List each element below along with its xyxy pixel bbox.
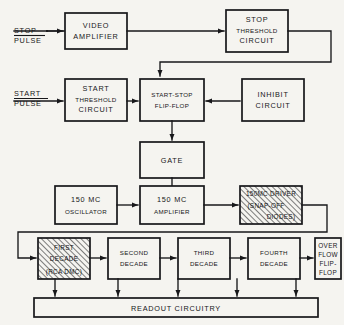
start-pulse-input: START PULSE [14, 89, 48, 108]
video-amplifier-box [65, 13, 127, 49]
block-third-decade: THIRD DECADE [178, 238, 230, 279]
oscillator-label-line2: OSCILLATOR [65, 208, 107, 215]
block-first-decade: FIRST DECADE (RCA DMC) [38, 238, 90, 279]
third-decade-label-line1: THIRD [194, 249, 215, 256]
driver-label-line3: DIODES) [267, 213, 296, 221]
block-overflow-flip-flop: OVER FLOW FLIP- FLOP [315, 238, 341, 279]
start-threshold-label-line2: THRESHOLD [75, 96, 116, 103]
first-decade-label-line1: FIRST [54, 244, 74, 251]
overflow-label-line2: FLOW [318, 251, 338, 258]
readout-label-line1: READOUT CIRCUITRY [131, 304, 221, 313]
block-readout-circuitry: READOUT CIRCUITRY [34, 298, 318, 317]
start-pulse-label-line1: START [14, 89, 41, 98]
stop-threshold-label-line3: CIRCUIT [240, 36, 275, 45]
block-gate: GATE [140, 142, 204, 178]
fourth-decade-label-line1: FOURTH [260, 249, 288, 256]
stop-threshold-label-line2: THRESHOLD [236, 27, 277, 34]
fourth-decade-box [248, 238, 300, 279]
block-diagram: STOP PULSE VIDEO AMPLIFIER STOP THRESHOL… [0, 0, 344, 325]
block-fourth-decade: FOURTH DECADE [248, 238, 300, 279]
start-stop-flip-flop-box [140, 79, 204, 121]
stop-threshold-label-line1: STOP [246, 15, 269, 24]
stop-pulse-input: STOP PULSE [14, 26, 65, 45]
third-decade-label-line2: DECADE [190, 260, 218, 267]
driver-label-line1: 150MC DRIVER [246, 190, 296, 197]
video-amplifier-label-line1: VIDEO [83, 21, 109, 30]
amplifier-150mc-box [140, 186, 204, 224]
oscillator-150mc-box [55, 186, 117, 224]
second-decade-box [108, 238, 160, 279]
block-start-stop-flip-flop: START-STOP FLIP-FLOP [140, 79, 204, 121]
second-decade-label-line1: SECOND [120, 249, 149, 256]
amplifier-150mc-label-line2: AMPLIFIER [154, 208, 190, 215]
inhibit-label-line1: INHIBIT [257, 90, 288, 99]
block-start-threshold-circuit: START THRESHOLD CIRCUIT [65, 79, 127, 121]
block-oscillator-150mc: 150 MC OSCILLATOR [55, 186, 117, 224]
video-amplifier-label-line2: AMPLIFIER [73, 32, 118, 41]
block-video-amplifier: VIDEO AMPLIFIER [65, 13, 127, 49]
third-decade-box [178, 238, 230, 279]
block-driver-150mc: 150MC DRIVER (SNAP-OFF DIODES) [240, 186, 302, 224]
stop-pulse-label-line2: PULSE [14, 36, 42, 45]
block-second-decade: SECOND DECADE [108, 238, 160, 279]
driver-label-line2: (SNAP-OFF [247, 202, 284, 210]
diagram-canvas: STOP PULSE VIDEO AMPLIFIER STOP THRESHOL… [0, 0, 344, 325]
block-inhibit-circuit: INHIBIT CIRCUIT [242, 79, 304, 121]
amplifier-150mc-label-line1: 150 MC [157, 195, 187, 204]
first-decade-label-line3: (RCA DMC) [46, 268, 82, 276]
overflow-label-line3: FLIP- [319, 260, 336, 267]
start-threshold-label-line1: START [83, 84, 110, 93]
oscillator-label-line1: 150 MC [71, 195, 101, 204]
second-decade-label-line2: DECADE [120, 260, 148, 267]
overflow-label-line1: OVER [318, 242, 337, 249]
gate-label-line1: GATE [161, 156, 183, 165]
start-stop-ff-label-line2: FLIP-FLOP [155, 102, 189, 109]
inhibit-label-line2: CIRCUIT [256, 101, 291, 110]
inhibit-circuit-box [242, 79, 304, 121]
overflow-label-line4: FLOP [319, 269, 337, 276]
block-amplifier-150mc: 150 MC AMPLIFIER [140, 186, 204, 224]
start-threshold-label-line3: CIRCUIT [79, 105, 114, 114]
start-stop-ff-label-line1: START-STOP [151, 91, 193, 98]
block-stop-threshold-circuit: STOP THRESHOLD CIRCUIT [226, 10, 288, 52]
fourth-decade-label-line2: DECADE [260, 260, 288, 267]
first-decade-label-line2: DECADE [50, 255, 78, 262]
